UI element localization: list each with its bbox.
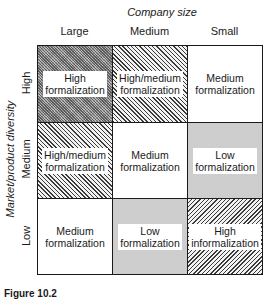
cell-label-line1: Medium: [195, 72, 255, 84]
cell-label-line2: formalization: [45, 237, 105, 249]
cell-label-line1: High/medium: [44, 149, 106, 161]
cell-label: High/medium formalization: [117, 71, 183, 97]
row-label-medium: Medium: [20, 121, 32, 197]
cell-label: High/medium formalization: [42, 148, 108, 174]
cell-label: Low formalization: [193, 148, 257, 174]
cell-label-line1: High: [191, 225, 259, 237]
cell-label: High informalization: [189, 224, 261, 250]
cell-low-medium: Low formalization: [113, 199, 188, 274]
cell-label-line2: formalization: [195, 84, 255, 96]
column-label-large: Large: [37, 25, 112, 37]
column-label-small: Small: [187, 25, 262, 37]
figure-caption: Figure 10.2: [4, 288, 57, 299]
cell-high-medium: High/medium formalization: [113, 46, 188, 123]
cell-label-line1: High/medium: [119, 72, 181, 84]
cell-label: Medium formalization: [118, 148, 182, 174]
row-label-high: High: [20, 45, 32, 121]
cell-label-line1: Low: [195, 149, 255, 161]
cell-label-line2: formalization: [119, 84, 181, 96]
cell-medium-medium: Medium formalization: [113, 123, 188, 199]
column-axis-title: Company size: [112, 6, 212, 18]
cell-label-line2: formalization: [44, 161, 106, 173]
cell-label-line2: formalization: [120, 161, 180, 173]
cell-high-large: High formalization: [38, 46, 113, 123]
cell-label-line1: Medium: [120, 149, 180, 161]
cell-label-line2: formalization: [45, 84, 105, 96]
row-axis-title: Market/product diversity: [4, 79, 16, 239]
cell-low-small: High informalization: [188, 199, 262, 274]
cell-label: Low formalization: [118, 224, 182, 250]
cell-high-small: Medium formalization: [188, 46, 262, 123]
cell-medium-small: Low formalization: [188, 123, 262, 199]
cell-label-line2: formalization: [195, 161, 255, 173]
cell-label: Medium formalization: [43, 224, 107, 250]
cell-label-line2: formalization: [120, 237, 180, 249]
cell-label-line1: High: [45, 72, 105, 84]
cell-low-large: Medium formalization: [38, 199, 113, 274]
cell-label-line1: Low: [120, 225, 180, 237]
cell-label: Medium formalization: [193, 71, 257, 97]
cell-medium-large: High/medium formalization: [38, 123, 113, 199]
cell-label: High formalization: [43, 71, 107, 97]
row-label-low: Low: [20, 198, 32, 274]
cell-label-line1: Medium: [45, 225, 105, 237]
column-label-medium: Medium: [112, 25, 187, 37]
formalization-matrix: High formalization High/medium formaliza…: [37, 45, 263, 275]
cell-label-line2: informalization: [191, 237, 259, 249]
